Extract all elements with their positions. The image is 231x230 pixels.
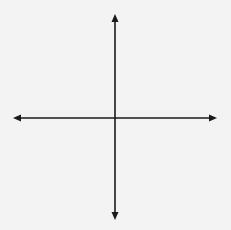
axes (13, 14, 217, 220)
coordinate-plane (0, 0, 231, 230)
x-axis-left-arrow-icon (13, 115, 21, 122)
x-axis-right-arrow-icon (209, 115, 217, 122)
y-axis-down-arrow-icon (112, 212, 119, 220)
y-axis-up-arrow-icon (112, 14, 119, 22)
